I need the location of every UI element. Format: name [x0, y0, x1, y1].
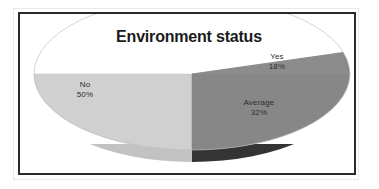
pie-chart-figure: Environment status: [0, 0, 379, 189]
pie-label-average-value: 32%: [228, 108, 290, 118]
pie-label-yes-value: 18%: [252, 62, 302, 72]
pie-label-yes-name: Yes: [252, 52, 302, 62]
pie-label-average: Average 32%: [228, 98, 290, 118]
pie-label-no: No 50%: [60, 80, 110, 100]
pie-label-yes: Yes 18%: [252, 52, 302, 72]
pie-label-average-name: Average: [228, 98, 290, 108]
pie-label-no-value: 50%: [60, 90, 110, 100]
pie-label-no-name: No: [60, 80, 110, 90]
pie-slice-no[interactable]: [34, 74, 192, 150]
figure-frame: Environment status: [18, 12, 356, 175]
